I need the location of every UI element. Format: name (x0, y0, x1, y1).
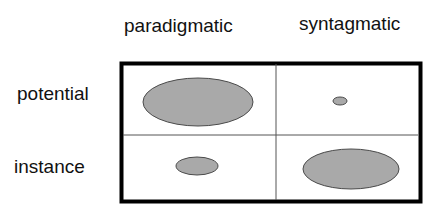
ellipse-potential-paradigmatic (143, 78, 253, 126)
ellipse-potential-syntagmatic (333, 97, 347, 105)
ellipse-instance-syntagmatic (303, 149, 399, 189)
ellipse-instance-paradigmatic (176, 157, 218, 175)
matrix-grid (0, 0, 437, 213)
